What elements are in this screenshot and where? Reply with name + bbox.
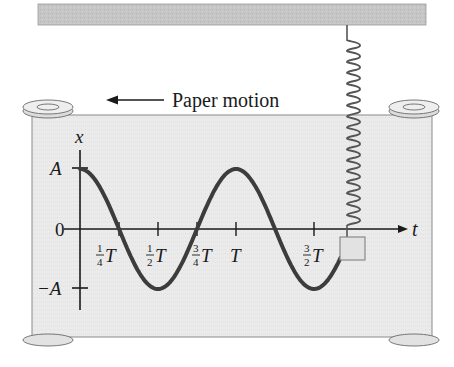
y-axis-label: x <box>74 126 84 147</box>
ceiling-bar <box>38 4 426 25</box>
roller-top-left-icon <box>23 100 73 118</box>
x-tick-label-T: T <box>230 245 242 266</box>
svg-text:3: 3 <box>304 242 310 254</box>
svg-text:T: T <box>230 245 242 266</box>
mass-block <box>340 237 365 260</box>
paper-motion-label: Paper motion <box>172 89 279 112</box>
y-tick-label-A: A <box>48 158 62 179</box>
svg-text:T: T <box>155 245 167 266</box>
svg-text:3: 3 <box>193 242 199 254</box>
x-tick-label-quarter: 1 4 T <box>96 242 117 268</box>
paper-motion-arrow-icon <box>106 96 164 105</box>
svg-text:T: T <box>105 245 117 266</box>
x-tick-label-three-half: 3 2 T <box>303 242 324 268</box>
roller-bottom-left-icon <box>23 334 73 346</box>
svg-text:4: 4 <box>97 256 103 268</box>
svg-text:1: 1 <box>97 242 103 254</box>
y-tick-label-0: 0 <box>55 219 65 240</box>
svg-text:2: 2 <box>147 256 153 268</box>
x-tick-label-half: 1 2 T <box>146 242 167 268</box>
svg-text:T: T <box>312 245 324 266</box>
x-axis-label: t <box>412 218 418 240</box>
svg-text:1: 1 <box>147 242 153 254</box>
paper-strip <box>32 115 432 337</box>
roller-top-right-icon <box>389 100 439 118</box>
spring-mass-paper-diagram: Paper motion x t A 0 −A 1 4 T 1 2 T 3 4 … <box>0 0 454 367</box>
roller-bottom-right-icon <box>389 334 439 346</box>
x-tick-label-three-quarter: 3 4 T <box>192 242 213 268</box>
svg-text:2: 2 <box>304 256 310 268</box>
svg-text:T: T <box>201 245 213 266</box>
y-tick-label-minus-A: −A <box>37 278 62 299</box>
svg-text:4: 4 <box>193 256 199 268</box>
